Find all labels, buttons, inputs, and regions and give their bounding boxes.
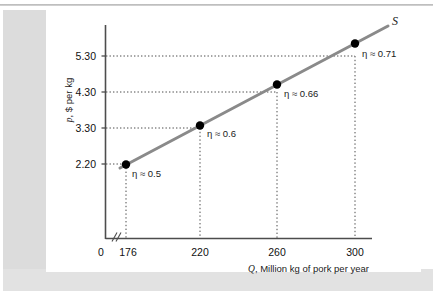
x-tick-label: 176	[119, 246, 137, 258]
x-tick-label: 300	[346, 246, 364, 258]
x-tick-label: 260	[268, 246, 286, 258]
y-tick-label: 5.30	[76, 50, 97, 62]
supply-curve-chart: 5.30 4.30 3.30 2.20 0 176 220 260 300 η …	[0, 0, 433, 291]
y-axis-title-rest: , $ per kg	[63, 78, 74, 118]
x-origin-label: 0	[98, 246, 104, 258]
point-annotation-220: η ≈ 0.6	[207, 128, 236, 139]
point-annotation-260: η ≈ 0.66	[284, 88, 318, 99]
y-tick-label: 3.30	[76, 122, 97, 134]
y-tick-label: 2.20	[76, 158, 97, 170]
supply-curve-label: S	[392, 14, 398, 28]
data-point[interactable]	[122, 160, 130, 168]
x-tick-label: 220	[191, 246, 209, 258]
y-tick-label: 4.30	[76, 86, 97, 98]
data-point[interactable]	[351, 39, 359, 47]
svg-text:p, $ per kg: p, $ per kg	[63, 78, 74, 123]
data-point[interactable]	[273, 80, 281, 88]
data-point[interactable]	[196, 121, 204, 129]
x-axis-title-rest: , Million kg of pork per year	[255, 263, 369, 274]
figure-page: 5.30 4.30 3.30 2.20 0 176 220 260 300 η …	[0, 0, 433, 291]
point-annotation-176: η ≈ 0.5	[132, 168, 161, 179]
x-axis-title: Q, Million kg of pork per year	[248, 263, 369, 274]
supply-curve-line[interactable]	[120, 26, 388, 168]
point-annotation-300: η ≈ 0.71	[362, 48, 396, 59]
y-axis-title: p, $ per kg	[63, 78, 74, 123]
